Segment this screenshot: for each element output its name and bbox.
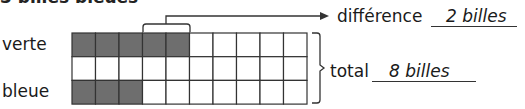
grid-cell-empty — [213, 33, 237, 57]
grid-cell-shaded — [166, 33, 190, 57]
difference-arrowhead — [320, 12, 329, 20]
grid-cell-empty — [284, 33, 308, 57]
grid-cell-shaded — [143, 33, 167, 57]
difference-label: différence — [337, 6, 422, 26]
total-value: 8 billes — [389, 61, 450, 81]
grid-cell-shaded — [119, 33, 143, 57]
grid-cell-empty — [166, 80, 190, 104]
grid-cell-empty — [284, 80, 308, 104]
grid-cell-shaded — [96, 33, 120, 57]
grid-cell-empty — [190, 33, 214, 57]
grid-cell-empty — [96, 57, 120, 81]
grid-cell-empty — [143, 57, 167, 81]
grid-cell-shaded — [72, 80, 96, 104]
grid-cell-empty — [260, 57, 284, 81]
grid-cell-empty — [237, 80, 261, 104]
grid-cell-empty — [143, 80, 167, 104]
grid — [72, 33, 307, 104]
grid-cell-empty — [72, 57, 96, 81]
grid-cell-shaded — [96, 80, 120, 104]
grid-cell-empty — [237, 33, 261, 57]
grid-cell-shaded — [119, 80, 143, 104]
grid-cell-empty — [284, 57, 308, 81]
grid-cell-empty — [260, 33, 284, 57]
grid-cell-empty — [237, 57, 261, 81]
grid-cell-empty — [190, 80, 214, 104]
total-label: total — [330, 61, 369, 81]
difference-brace — [143, 16, 320, 32]
grid-cell-empty — [213, 80, 237, 104]
difference-value: 2 billes — [446, 6, 507, 26]
grid-cell-empty — [190, 57, 214, 81]
grid-cell-empty — [260, 80, 284, 104]
grid-cell-shaded — [72, 33, 96, 57]
grid-cell-empty — [213, 57, 237, 81]
grid-cell-empty — [166, 57, 190, 81]
grid-cell-empty — [119, 57, 143, 81]
total-brace — [312, 33, 324, 103]
